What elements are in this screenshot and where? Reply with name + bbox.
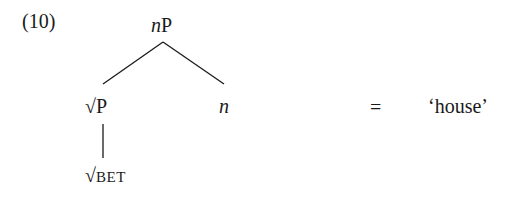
node-root-bet: √BET	[85, 165, 126, 187]
node-rootP: √P	[85, 96, 107, 116]
root-sign: √	[85, 95, 96, 117]
node-rootP-label: P	[96, 95, 107, 117]
gloss: ‘house’	[428, 96, 488, 116]
node-nP: nP	[151, 15, 172, 35]
node-bet-label: BET	[96, 169, 126, 185]
node-nP-n: n	[151, 14, 161, 36]
branch-np-to-rootp	[103, 42, 163, 84]
node-n: n	[219, 96, 229, 116]
root-sign: √	[85, 164, 96, 186]
equals-sign: =	[370, 97, 381, 117]
branch-np-to-n	[163, 42, 224, 84]
node-nP-P: P	[161, 14, 172, 36]
